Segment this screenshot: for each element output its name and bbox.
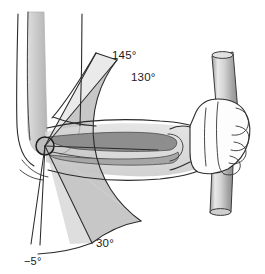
elbow-rom-figure: 145° 130° 30° −5° <box>0 0 265 274</box>
humerus-bone <box>27 12 47 152</box>
angle-label-minus-5: −5° <box>24 255 42 267</box>
bar-bottom-ellipse <box>210 209 231 216</box>
humerus-fill <box>27 12 47 152</box>
bar-top-ellipse <box>212 52 233 59</box>
angle-label-30: 30° <box>96 237 114 249</box>
angle-label-130: 130° <box>131 71 156 83</box>
elbow-rom-illustration: 145° 130° 30° −5° <box>0 0 265 274</box>
angle-label-145: 145° <box>112 49 137 61</box>
